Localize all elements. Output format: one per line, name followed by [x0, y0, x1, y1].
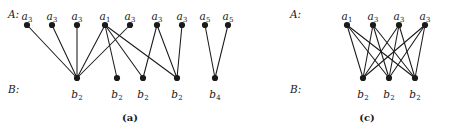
- vertex-label-b-4: b4: [209, 89, 221, 102]
- graph-edge: [177, 25, 182, 78]
- panel-a-row-label-a: A:: [8, 9, 19, 20]
- graph-edge: [77, 25, 105, 78]
- graph-node-b: [412, 75, 418, 81]
- graph-edge: [215, 25, 228, 78]
- vertex-label-b-2: b2: [409, 89, 421, 102]
- vertex-label-a-6: a3: [176, 11, 187, 24]
- panel-c-row-label-a: A:: [290, 9, 301, 20]
- vertex-label-b-0: b2: [357, 89, 369, 102]
- vertex-label-a-2: a3: [71, 11, 82, 24]
- panel-a-edges: [27, 25, 228, 78]
- vertex-label-a-3: a3: [419, 11, 430, 24]
- graph-node-b: [140, 75, 146, 81]
- vertex-label-b-2: b2: [137, 89, 149, 102]
- vertex-label-a-0: a3: [21, 11, 32, 24]
- graph-edge: [347, 25, 363, 78]
- vertex-label-a-2: a3: [393, 11, 404, 24]
- panel-c-nodes: [344, 22, 428, 81]
- vertex-label-a-3: a1: [99, 11, 110, 24]
- panel-a-caption: (a): [122, 113, 138, 123]
- graph-node-b: [174, 75, 180, 81]
- graph-edge: [105, 25, 177, 78]
- graph-edge: [77, 25, 130, 78]
- graph-node-b: [360, 75, 366, 81]
- bipartite-graph-figure: a3a3a3a1a3a3a3a5a5b2b2b2b2b4A:B:(a)a1a3a…: [0, 0, 452, 134]
- panel-c-caption: (c): [359, 113, 375, 123]
- vertex-label-a-1: a3: [46, 11, 57, 24]
- graph-node-b: [114, 75, 120, 81]
- vertex-label-a-1: a3: [367, 11, 378, 24]
- vertex-label-b-0: b2: [71, 89, 83, 102]
- vertex-label-a-8: a5: [222, 11, 233, 24]
- vertex-label-b-3: b2: [171, 89, 183, 102]
- vertex-label-a-0: a1: [341, 11, 352, 24]
- graph-edge: [52, 25, 77, 78]
- graph-edge: [143, 25, 157, 78]
- graph-edge: [205, 25, 215, 78]
- panel-a-row-label-b: B:: [8, 84, 19, 95]
- graph-node-b: [386, 75, 392, 81]
- graph-node-b: [74, 75, 80, 81]
- vertex-label-a-4: a3: [124, 11, 135, 24]
- vertex-label-a-7: a5: [199, 11, 210, 24]
- vertex-label-a-5: a3: [151, 11, 162, 24]
- panel-c-row-label-b: B:: [290, 84, 301, 95]
- graph-node-b: [212, 75, 218, 81]
- graph-edge: [27, 25, 77, 78]
- vertex-label-b-1: b2: [111, 89, 123, 102]
- vertex-label-b-1: b2: [383, 89, 395, 102]
- panel-c-edges: [347, 25, 425, 78]
